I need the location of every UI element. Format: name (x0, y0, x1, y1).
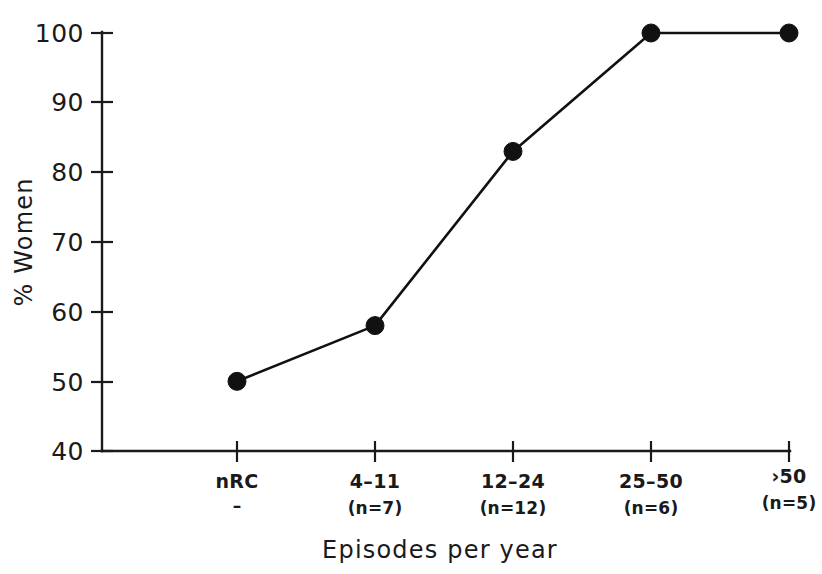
x-tick-label-3: 25–50 (619, 470, 683, 492)
x-tick-sublabel-2: (n=12) (480, 498, 547, 518)
y-tick-label-80: 80 (51, 158, 84, 187)
chart-figure: 100 90 80 70 60 50 40 nRC 4–11 12–24 25–… (0, 0, 822, 574)
x-tick-sublabel-3: (n=6) (624, 498, 679, 518)
x-tick-label-2: 12–24 (481, 470, 545, 492)
x-axis-title: Episodes per year (322, 536, 558, 564)
y-tick-label-70: 70 (51, 228, 84, 257)
data-point-marker (366, 317, 384, 335)
data-point-marker (780, 24, 798, 42)
series-markers (228, 24, 798, 390)
x-tick-sublabel-1: (n=7) (348, 498, 403, 518)
data-point-marker (642, 24, 660, 42)
x-tick-sublabel-0: – (233, 496, 242, 516)
y-tick-label-60: 60 (51, 298, 84, 327)
y-tick-label-50: 50 (51, 368, 84, 397)
data-point-marker (504, 142, 522, 160)
y-axis-title: % Women (10, 177, 38, 306)
y-tick-label-100: 100 (35, 19, 84, 48)
y-tick-label-90: 90 (51, 88, 84, 117)
line-chart-plot: 100 90 80 70 60 50 40 nRC 4–11 12–24 25–… (0, 0, 822, 574)
x-tick-label-1: 4–11 (350, 470, 400, 492)
data-point-marker (228, 372, 246, 390)
y-tick-label-40: 40 (51, 437, 84, 466)
x-tick-label-4: ›50 (771, 465, 806, 487)
x-tick-sublabel-4: (n=5) (762, 493, 817, 513)
series-line-percent-women (237, 33, 789, 381)
x-tick-label-0: nRC (215, 470, 258, 492)
